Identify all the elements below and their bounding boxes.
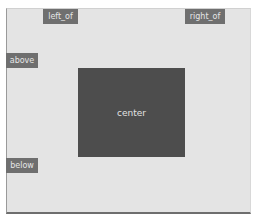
right-of-label: right_of: [185, 9, 225, 24]
below-label: below: [6, 158, 38, 173]
center-box: center: [78, 68, 185, 157]
center-label: center: [117, 108, 146, 118]
above-label: above: [6, 53, 38, 68]
left-of-label: left_of: [43, 9, 78, 24]
